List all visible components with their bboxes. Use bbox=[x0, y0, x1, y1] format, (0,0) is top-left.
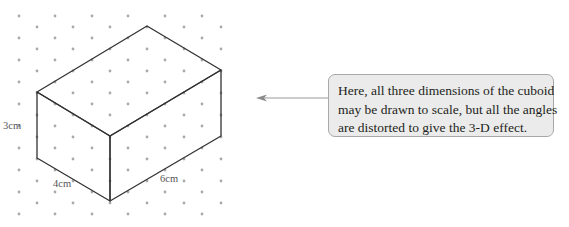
callout-line-3: are distorted to give the 3-D effect. bbox=[338, 119, 545, 138]
grid-dot bbox=[164, 191, 167, 194]
grid-dot bbox=[18, 59, 21, 62]
grid-dot bbox=[201, 169, 204, 172]
grid-dot bbox=[127, 213, 130, 216]
grid-dot bbox=[164, 15, 167, 18]
grid-dot bbox=[146, 158, 149, 161]
grid-dot bbox=[220, 180, 223, 183]
pointer-arrow bbox=[256, 95, 328, 102]
grid-dot bbox=[146, 136, 149, 139]
grid-dot bbox=[18, 191, 21, 194]
grid-dot bbox=[36, 48, 39, 51]
grid-dot bbox=[18, 213, 21, 216]
grid-dot bbox=[109, 26, 112, 29]
grid-dot bbox=[201, 191, 204, 194]
callout-line-1: Here, all three dimensions of the cuboid bbox=[338, 82, 545, 101]
length-label: 6cm bbox=[160, 173, 178, 184]
grid-dot bbox=[109, 92, 112, 95]
grid-dot bbox=[183, 136, 186, 139]
grid-dot bbox=[201, 37, 204, 40]
grid-dot bbox=[164, 81, 167, 84]
grid-dot bbox=[127, 103, 130, 106]
cuboid-left-face bbox=[37, 92, 110, 201]
grid-dot bbox=[72, 136, 75, 139]
grid-dot bbox=[109, 70, 112, 73]
grid-dot bbox=[127, 147, 130, 150]
grid-dot bbox=[18, 81, 21, 84]
callout-line-2: may be drawn to scale, but all the angle… bbox=[338, 101, 545, 120]
grid-dot bbox=[220, 202, 223, 205]
grid-dot bbox=[72, 48, 75, 51]
grid-dot bbox=[127, 59, 130, 62]
grid-dot bbox=[146, 92, 149, 95]
grid-dot bbox=[183, 114, 186, 117]
grid-dot bbox=[72, 158, 75, 161]
grid-dot bbox=[109, 202, 112, 205]
grid-dot bbox=[164, 59, 167, 62]
grid-dot bbox=[91, 15, 94, 18]
grid-dot bbox=[146, 202, 149, 205]
grid-dot bbox=[201, 125, 204, 128]
grid-dot bbox=[183, 70, 186, 73]
grid-dot bbox=[18, 147, 21, 150]
grid-dot bbox=[54, 147, 57, 150]
grid-dot bbox=[91, 169, 94, 172]
grid-dot bbox=[72, 92, 75, 95]
grid-dot bbox=[127, 81, 130, 84]
grid-dot bbox=[146, 70, 149, 73]
grid-dot bbox=[54, 213, 57, 216]
grid-dot bbox=[220, 158, 223, 161]
grid-dot bbox=[146, 48, 149, 51]
grid-dot bbox=[18, 37, 21, 40]
grid-dot bbox=[164, 213, 167, 216]
width-label: 4cm bbox=[53, 178, 71, 189]
grid-dot bbox=[164, 125, 167, 128]
height-label: 3cm bbox=[3, 120, 21, 131]
grid-dot bbox=[127, 15, 130, 18]
grid-dot bbox=[183, 202, 186, 205]
isometric-dot-grid bbox=[18, 15, 223, 216]
grid-dot bbox=[220, 26, 223, 29]
grid-dot bbox=[18, 103, 21, 106]
grid-dot bbox=[201, 213, 204, 216]
grid-dot bbox=[91, 213, 94, 216]
grid-dot bbox=[72, 26, 75, 29]
grid-dot bbox=[54, 191, 57, 194]
grid-dot bbox=[201, 103, 204, 106]
grid-dot bbox=[54, 37, 57, 40]
grid-dot bbox=[91, 147, 94, 150]
grid-dot bbox=[164, 147, 167, 150]
explanation-callout: Here, all three dimensions of the cuboid… bbox=[328, 74, 554, 137]
grid-dot bbox=[54, 15, 57, 18]
grid-dot bbox=[36, 202, 39, 205]
grid-dot bbox=[54, 125, 57, 128]
grid-dot bbox=[220, 48, 223, 51]
cuboid-top-face bbox=[37, 26, 221, 136]
grid-dot bbox=[36, 26, 39, 29]
grid-dot bbox=[36, 70, 39, 73]
grid-dot bbox=[54, 59, 57, 62]
grid-dot bbox=[18, 15, 21, 18]
cuboid bbox=[37, 26, 221, 201]
grid-dot bbox=[183, 180, 186, 183]
grid-dot bbox=[127, 169, 130, 172]
grid-dot bbox=[18, 169, 21, 172]
grid-dot bbox=[109, 114, 112, 117]
grid-dot bbox=[91, 103, 94, 106]
grid-dot bbox=[36, 180, 39, 183]
grid-dot bbox=[72, 202, 75, 205]
grid-dot bbox=[91, 81, 94, 84]
grid-dot bbox=[183, 26, 186, 29]
grid-dot bbox=[201, 15, 204, 18]
grid-dot bbox=[91, 37, 94, 40]
